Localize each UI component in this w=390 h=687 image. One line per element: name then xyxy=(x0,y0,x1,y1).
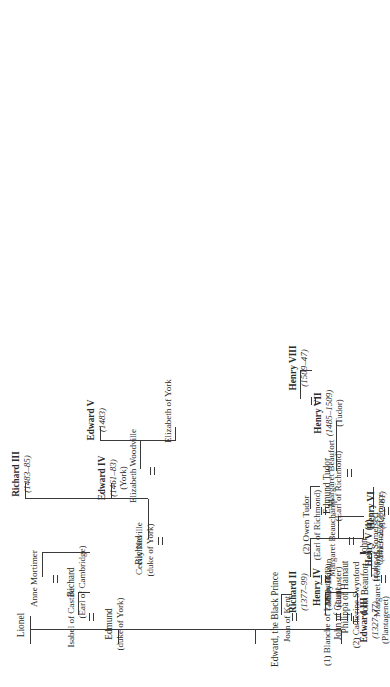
connector-edward3-sibling-spine xyxy=(30,629,341,630)
node-name: Richard xyxy=(66,539,77,625)
marriage-sign-edmundtudor-margaret xyxy=(347,469,352,477)
node-edward-black-prince[interactable]: Edward, the Black Prince xyxy=(270,581,281,667)
node-name: Elizabeth Woodville xyxy=(128,441,139,503)
node-edmund-duke-of-york[interactable]: Edmund (duke of York) xyxy=(104,591,125,657)
marriage-sign-somerset-beauchamp xyxy=(349,537,354,545)
node-dates: (1377–99) xyxy=(299,563,309,621)
marriage-sign-cambridge-anne xyxy=(53,575,58,583)
node-name: Cecily Neville xyxy=(134,523,145,575)
node-richard-ii[interactable]: Richard II (1377–99) xyxy=(288,563,309,621)
node-name: Edward V xyxy=(86,393,97,447)
node-house: (Earl of Cambridge) xyxy=(77,539,87,625)
node-henry-viii[interactable]: Henry VIII (1509–47) xyxy=(288,339,309,397)
node-dates: (1483) xyxy=(97,393,107,447)
marriage-sign-york-cecily xyxy=(158,537,163,545)
node-margaret-beaufort[interactable]: Margaret Beaufort xyxy=(326,445,337,507)
node-anne-mortimer[interactable]: Anne Mortimer xyxy=(29,551,40,607)
node-edward-iv[interactable]: Edward IV (1461–83) (York) xyxy=(97,451,129,505)
connector-child-elizyork xyxy=(175,427,176,441)
node-name: Lionel xyxy=(16,605,27,645)
node-richard-earl-of-cambridge[interactable]: Richard (Earl of Cambridge) xyxy=(66,539,87,625)
node-house: (duke of York) xyxy=(115,591,125,657)
node-henry-vii[interactable]: Henry VII (1485–1509) (Tudor) xyxy=(313,377,345,449)
node-name: Elizabeth of York xyxy=(163,381,174,443)
node-house: (Earl of Richmond) xyxy=(312,479,322,571)
node-richard-iii[interactable]: Richard III (1483–85) xyxy=(11,445,32,503)
node-name: Edward IV xyxy=(97,451,108,505)
chart-rotation-wrapper: Edward III (1327–77) (Plantagenet) Phili… xyxy=(0,0,390,687)
node-name: Edmund xyxy=(104,591,115,657)
node-owen-tudor[interactable]: (2) Owen Tudor (Earl of Richmond) xyxy=(301,479,322,571)
node-elizabeth-of-york[interactable]: Elizabeth of York xyxy=(163,381,174,443)
node-elizabeth-woodville[interactable]: Elizabeth Woodville xyxy=(128,441,139,503)
genealogy-chart: Edward III (1327–77) (Plantagenet) Phili… xyxy=(0,0,390,687)
node-dates: (1461–83) xyxy=(108,451,118,505)
node-name: Henry VII xyxy=(313,377,324,449)
node-house: (duke of York) xyxy=(145,517,155,583)
connector-edward4-eliz-stem xyxy=(140,441,141,469)
node-dates: (1509–47) xyxy=(299,339,309,397)
node-dates: (1422–61) xyxy=(377,481,387,539)
node-cecily-neville[interactable]: Cecily Neville xyxy=(134,523,145,575)
marriage-sign-edward4-elizabeth xyxy=(150,467,155,475)
node-dates: (1483–85) xyxy=(22,445,32,503)
node-henry-vi[interactable]: Henry VI (1422–61) xyxy=(366,481,387,539)
node-name: Margaret Beaufort xyxy=(326,445,337,507)
node-name: Richard II xyxy=(288,563,299,621)
connector-branch-blackprince xyxy=(255,630,256,644)
node-name: Henry VIII xyxy=(288,339,299,397)
node-house: (Tudor) xyxy=(334,377,344,449)
chart-canvas: Edward III (1327–77) (Plantagenet) Phili… xyxy=(0,0,390,687)
node-lionel[interactable]: Lionel xyxy=(16,605,27,645)
node-name: Anne Mortimer xyxy=(29,551,40,607)
node-name: (2) Owen Tudor xyxy=(301,479,312,571)
connector-cambridge-anne-child xyxy=(42,553,43,577)
connector-branch-lionel xyxy=(30,630,31,644)
node-edward-v[interactable]: Edward V (1483) xyxy=(86,393,107,447)
node-name: Richard III xyxy=(11,445,22,503)
node-name: Edward, the Black Prince xyxy=(270,581,281,667)
node-dates: (1485–1509) xyxy=(324,377,334,449)
connector-edward3-drop xyxy=(30,616,31,630)
node-name: Henry VI xyxy=(366,481,377,539)
marriage-sign-edmund-isabel xyxy=(89,613,94,621)
